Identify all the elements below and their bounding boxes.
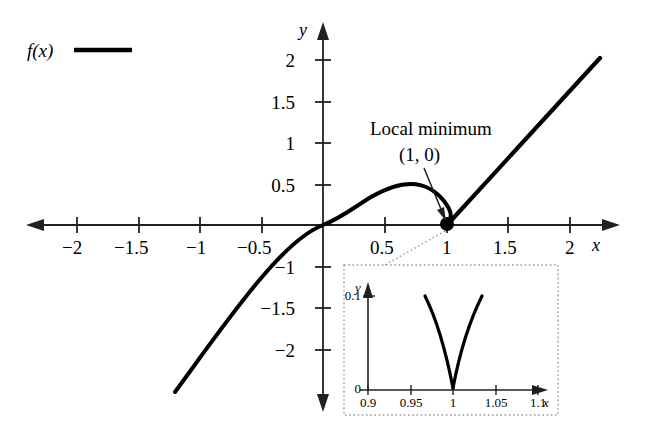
y-tick-label: 1 — [286, 134, 296, 153]
inset-x-tick-label: 0.9 — [360, 396, 376, 409]
x-tick-label: −1 — [186, 238, 206, 257]
y-tick-label: −1 — [275, 258, 295, 277]
inset-x-tick-label: 1.05 — [485, 396, 508, 409]
y-tick-label: −1.5 — [261, 299, 295, 318]
x-tick-label: 2 — [565, 238, 575, 257]
x-tick-label: 1.5 — [493, 238, 517, 257]
x-tick-label: 0.5 — [370, 238, 394, 257]
y-tick-label: 1.5 — [271, 93, 295, 112]
y-tick-label: 0.5 — [271, 176, 295, 195]
x-tick-label: −1.5 — [114, 238, 148, 257]
y-tick-label: −2 — [275, 341, 295, 360]
figure-labels: f(x) y x −2 −1.5 −1 −0.5 0.5 1 1.5 2 2 1… — [0, 0, 646, 435]
x-tick-label: −0.5 — [237, 238, 271, 257]
y-axis-label: y — [299, 21, 307, 39]
x-axis-label: x — [592, 236, 600, 254]
y-tick-label: 2 — [286, 51, 296, 70]
figure-root: { "legend": { "label": "f(x)", "swatch":… — [0, 0, 646, 435]
inset-x-tick-label: 1.1 — [530, 396, 546, 409]
legend-label: f(x) — [27, 41, 53, 60]
annotation-line-1: Local minimum — [370, 119, 492, 138]
inset-x-tick-label: 1 — [450, 396, 457, 409]
x-tick-label: 1 — [442, 238, 452, 257]
x-tick-label: −2 — [62, 238, 82, 257]
inset-y-tick-label: 0 — [355, 382, 362, 395]
inset-y-tick-label: 0.1 — [345, 289, 361, 302]
inset-x-tick-label: 0.95 — [400, 396, 423, 409]
annotation-line-2: (1, 0) — [399, 145, 440, 164]
